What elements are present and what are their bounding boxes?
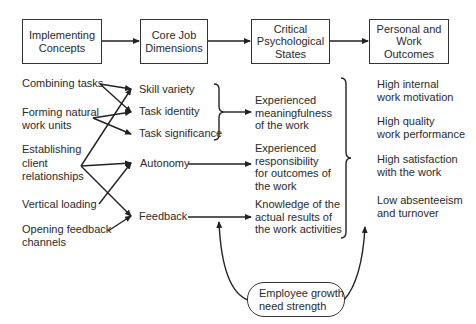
concept-line: relationships — [22, 170, 84, 184]
core-task-significance: Task significance — [139, 127, 222, 140]
concept-vertical-loading: Vertical loading — [22, 198, 97, 211]
state-line: meaningfulness — [255, 107, 332, 120]
state-experienced-responsibility: Experienced responsibility for outcomes … — [255, 142, 331, 192]
outcome-line: work motivation — [377, 91, 453, 104]
concept-line: Opening feedback — [22, 223, 111, 236]
header-critical-psychological-states: CriticalPsychologicalStates — [251, 19, 330, 64]
concept-line: work units — [22, 119, 99, 132]
concept-combining-tasks: Combining tasks — [22, 77, 103, 90]
core-task-identity: Task identity — [139, 105, 200, 118]
header-line: Psychological — [257, 35, 324, 48]
core-autonomy: Autonomy — [140, 157, 190, 170]
moderator-employee-growth-need-strength: Employee growth need strength — [247, 282, 345, 317]
state-line: Knowledge of the — [255, 198, 342, 211]
concept-establishing-client-relationships: Establishing client relationships — [22, 143, 84, 184]
core-feedback: Feedback — [139, 210, 187, 223]
state-line: responsibility — [255, 155, 331, 168]
state-knowledge-of-results: Knowledge of the actual results of the w… — [255, 198, 342, 236]
state-line: of the work — [255, 119, 332, 132]
concept-line: channels — [22, 236, 111, 249]
outcome-high-satisfaction: High satisfaction with the work — [377, 153, 458, 178]
moderator-arrow-right — [344, 227, 365, 300]
moderator-line: need strength — [259, 300, 344, 313]
header-line: Critical — [257, 23, 324, 36]
core-skill-variety: Skill variety — [139, 83, 195, 96]
header-line: Implementing — [29, 29, 95, 42]
outcome-low-absenteeism: Low absenteeism and turnover — [377, 194, 463, 219]
state-line: Experienced — [255, 142, 331, 155]
outcome-line: and turnover — [377, 207, 463, 220]
concept-line: client — [22, 157, 84, 171]
header-implementing-concepts: ImplementingConcepts — [22, 19, 102, 64]
brace-critical-states — [341, 78, 351, 238]
outcome-line: High satisfaction — [377, 153, 458, 166]
header-line: Personal and — [370, 23, 448, 36]
outcome-line: work performance — [377, 128, 465, 141]
outcome-line: High quality — [377, 115, 465, 128]
header-core-job-dimensions: Core JobDimensions — [140, 19, 208, 64]
header-line: Concepts — [29, 42, 95, 55]
state-line: Experienced — [255, 94, 332, 107]
state-line: for outcomes of — [255, 167, 331, 180]
header-line: Dimensions — [145, 42, 202, 55]
header-personal-work-outcomes: Personal andWork Outcomes — [369, 19, 449, 64]
header-line: Core Job — [145, 29, 202, 42]
header-line: Work Outcomes — [370, 35, 448, 60]
concept-line: Vertical loading — [22, 198, 97, 211]
outcome-line: Low absenteeism — [377, 194, 463, 207]
state-line: actual results of — [255, 211, 342, 224]
concept-line: Forming natural — [22, 106, 99, 119]
state-experienced-meaningfulness: Experienced meaningfulness of the work — [255, 94, 332, 132]
header-line: States — [257, 48, 324, 61]
concept-forming-natural-work-units: Forming natural work units — [22, 106, 99, 131]
moderator-arrow-left — [219, 222, 248, 300]
outcome-line: with the work — [377, 166, 458, 179]
outcome-line: High internal — [377, 78, 453, 91]
outcome-quality-performance: High quality work performance — [377, 115, 465, 140]
state-line: the work activities — [255, 223, 342, 236]
state-line: the work — [255, 180, 331, 193]
concept-line: Establishing — [22, 143, 84, 157]
moderator-line: Employee growth — [259, 287, 344, 300]
outcome-internal-motivation: High internal work motivation — [377, 78, 453, 103]
concept-opening-feedback-channels: Opening feedback channels — [22, 223, 111, 248]
concept-line: Combining tasks — [22, 77, 103, 90]
